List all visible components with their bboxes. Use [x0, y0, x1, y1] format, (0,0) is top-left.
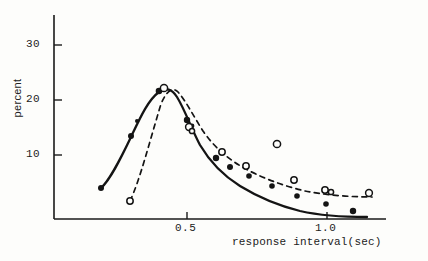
filled-marker: [269, 183, 275, 189]
y-tick-label-30: 30: [26, 38, 40, 50]
filled-marker: [323, 201, 329, 207]
x-axis-title: response interval(sec): [232, 236, 382, 248]
open-marker: [160, 84, 167, 91]
open-marker: [219, 149, 225, 155]
filled-marker: [128, 133, 134, 139]
open-marker: [328, 189, 333, 194]
data-series-group: [101, 89, 372, 217]
y-tick-label-20: 20: [26, 93, 40, 105]
filled-marker: [213, 155, 219, 161]
filled-marker: [184, 117, 190, 123]
x-tick-label-0-5: 0.5: [175, 222, 196, 234]
dashed-curve-path: [130, 90, 372, 201]
x-tick-label-1-0: 1.0: [315, 222, 336, 234]
solid-curve-path: [101, 89, 367, 217]
open-marker: [322, 187, 328, 193]
filled-marker: [227, 164, 233, 170]
filled-marker: [246, 173, 252, 179]
y-axis-title: percent: [11, 68, 23, 128]
filled-circle-markers: [98, 88, 356, 215]
filled-marker: [98, 185, 104, 191]
open-circle-markers: [127, 84, 373, 204]
open-marker: [273, 140, 280, 147]
plot-canvas: [0, 0, 428, 261]
open-marker: [243, 163, 249, 169]
filled-marker: [294, 193, 300, 199]
open-marker: [366, 190, 373, 197]
figure-panel: 30 20 10 0.5 1.0 percent response interv…: [0, 0, 428, 261]
filled-marker: [135, 119, 139, 123]
open-marker: [291, 177, 297, 183]
open-marker: [127, 198, 133, 204]
y-tick-label-10: 10: [26, 148, 40, 160]
filled-marker: [350, 208, 356, 214]
open-marker: [189, 128, 194, 133]
